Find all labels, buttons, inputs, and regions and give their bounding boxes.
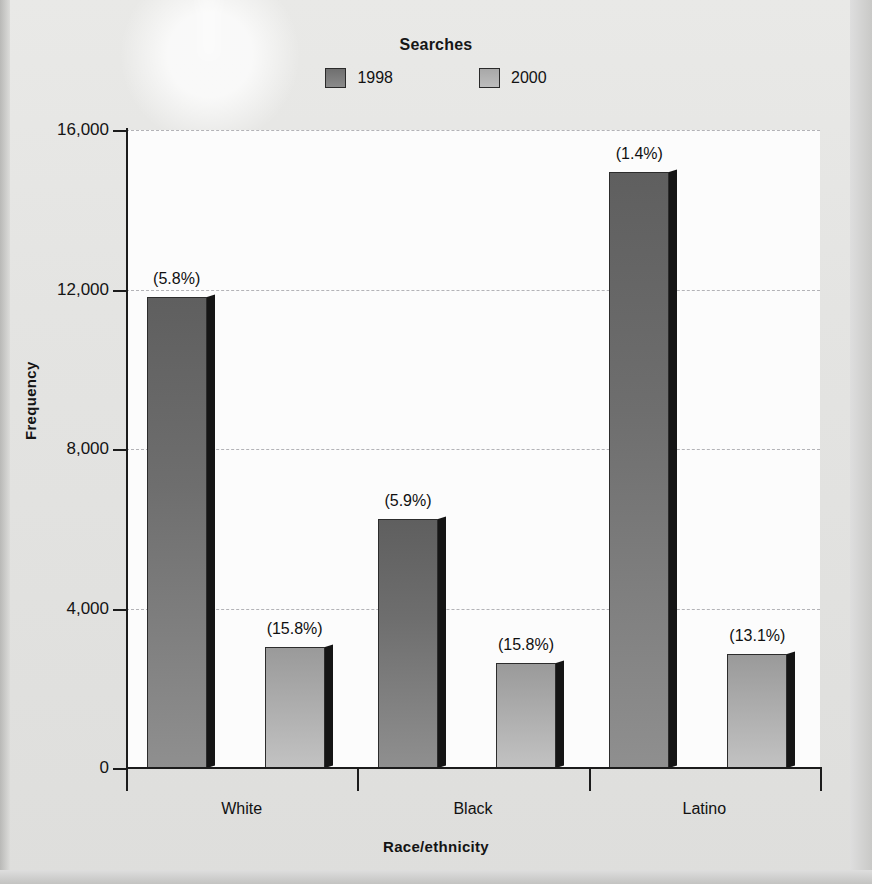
y-axis-tick <box>113 290 126 292</box>
bar-front-face <box>496 663 556 768</box>
y-axis-tick <box>113 449 126 451</box>
x-axis-line <box>126 767 822 769</box>
gridline <box>126 609 820 610</box>
bar-latino-2000[interactable]: (13.1%) <box>727 654 787 768</box>
legend-swatch-1998-icon <box>325 68 346 88</box>
x-axis-category-latino: Latino <box>683 800 727 818</box>
y-axis-tick <box>113 130 126 132</box>
bar-side-face <box>556 660 564 768</box>
bar-white-2000[interactable]: (15.8%) <box>265 647 325 768</box>
gridline <box>126 130 820 131</box>
bar-black-2000[interactable]: (15.8%) <box>496 663 556 768</box>
y-axis-title: Frequency <box>22 361 39 440</box>
bar-value-label: (5.8%) <box>153 270 200 288</box>
y-axis-tick-label: 0 <box>100 758 109 778</box>
y-axis-tick-label: 16,000 <box>57 120 109 140</box>
chart-legend: 1998 2000 <box>0 68 872 88</box>
legend-item-2000[interactable]: 2000 <box>479 68 547 88</box>
bar-front-face <box>727 654 787 768</box>
y-axis-tick <box>113 609 126 611</box>
gridline <box>126 290 820 291</box>
y-axis-tick-label: 12,000 <box>57 280 109 300</box>
gridline <box>126 449 820 450</box>
y-axis-tick-label: 8,000 <box>66 439 109 459</box>
y-axis-tick-label: 4,000 <box>66 599 109 619</box>
bar-value-label: (15.8%) <box>267 620 323 638</box>
bar-side-face <box>207 295 215 768</box>
bar-front-face <box>609 172 669 768</box>
bar-front-face <box>147 297 207 768</box>
bar-front-face <box>265 647 325 768</box>
legend-label-1998: 1998 <box>357 69 393 87</box>
x-axis-tick <box>126 769 128 791</box>
bar-value-label: (5.9%) <box>384 492 431 510</box>
bar-side-face <box>669 169 677 768</box>
x-axis-tick <box>357 769 359 791</box>
x-axis-category-white: White <box>221 800 262 818</box>
legend-swatch-2000-icon <box>479 68 500 88</box>
bar-black-1998[interactable]: (5.9%) <box>378 519 438 768</box>
bar-front-face <box>378 519 438 768</box>
x-axis-tick <box>589 769 591 791</box>
legend-label-2000: 2000 <box>511 69 547 87</box>
chart-title: Searches <box>0 36 872 54</box>
plot-area: 04,0008,00012,00016,000 (5.8%)(15.8%)(5.… <box>126 130 820 768</box>
bar-side-face <box>325 645 333 768</box>
legend-item-1998[interactable]: 1998 <box>325 68 393 88</box>
bar-white-1998[interactable]: (5.8%) <box>147 297 207 768</box>
x-axis-tick <box>820 769 822 791</box>
bar-side-face <box>787 651 795 768</box>
bar-value-label: (15.8%) <box>498 636 554 654</box>
bar-chart-figure: Searches 1998 2000 Frequency 04,0008,000… <box>0 0 872 884</box>
x-axis-title: Race/ethnicity <box>0 838 872 855</box>
bar-value-label: (13.1%) <box>729 627 785 645</box>
y-axis-tick <box>113 768 126 770</box>
bar-value-label: (1.4%) <box>616 145 663 163</box>
bar-latino-1998[interactable]: (1.4%) <box>609 172 669 768</box>
y-axis-line <box>126 128 128 769</box>
bar-side-face <box>438 516 446 768</box>
x-axis-category-black: Black <box>453 800 492 818</box>
